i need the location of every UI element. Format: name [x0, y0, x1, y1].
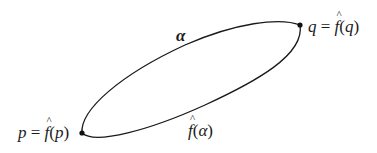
- label-alpha-text: α: [176, 26, 185, 45]
- label-p-fixed-point: p = f(p): [18, 124, 69, 141]
- label-q-fixed-point: q = f(q): [308, 18, 359, 35]
- point-p: [79, 130, 84, 135]
- label-alpha: α: [176, 27, 185, 44]
- point-q: [297, 22, 302, 27]
- label-f-hat-alpha: f(α): [188, 122, 213, 139]
- f-hat-symbol: f: [335, 18, 340, 35]
- f-hat-symbol: f: [188, 122, 193, 139]
- f-hat-symbol: f: [45, 124, 50, 141]
